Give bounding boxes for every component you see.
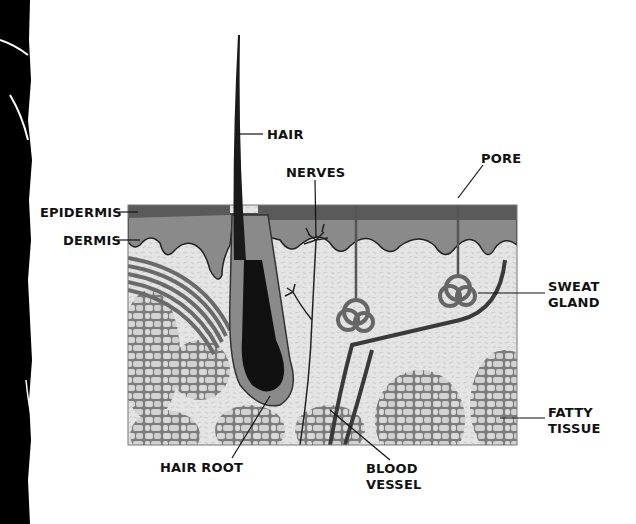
label-nerves: NERVES: [286, 165, 345, 181]
label-fatty-tissue-line1: FATTY: [548, 405, 600, 421]
skin-block: [120, 196, 540, 470]
label-blood-vessel-line2: VESSEL: [366, 477, 421, 493]
label-epidermis: EPIDERMIS: [40, 205, 122, 221]
label-sweat-gland-line2: GLAND: [548, 295, 600, 311]
label-sweat-gland-line1: SWEAT: [548, 279, 600, 295]
label-blood-vessel-line1: BLOOD: [366, 461, 421, 477]
skin-cross-section-diagram: [0, 0, 636, 524]
label-fatty-tissue-line2: TISSUE: [548, 421, 600, 437]
label-fatty-tissue: FATTY TISSUE: [548, 405, 600, 437]
label-hair-root: HAIR ROOT: [160, 460, 243, 476]
label-dermis: DERMIS: [63, 233, 121, 249]
label-blood-vessel: BLOOD VESSEL: [366, 461, 421, 493]
label-hair: HAIR: [267, 127, 304, 143]
label-sweat-gland: SWEAT GLAND: [548, 279, 600, 311]
label-pore: PORE: [481, 151, 521, 167]
